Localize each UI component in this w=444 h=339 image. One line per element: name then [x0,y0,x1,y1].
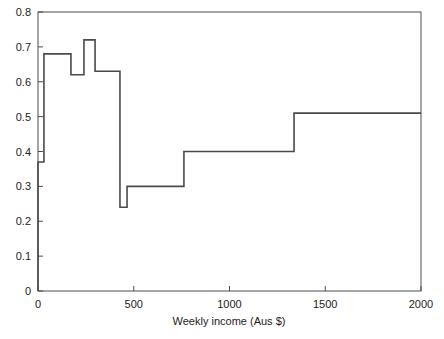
x-tick-label: 2000 [409,298,433,310]
y-axis-tick-labels: 00.10.20.30.40.50.60.70.8 [16,6,31,297]
y-tick-label: 0.4 [16,146,31,158]
x-tick-label: 500 [125,298,143,310]
x-axis-title: Weekly income (Aus $) [173,315,286,327]
y-tick-label: 0.2 [16,215,31,227]
y-tick-label: 0.5 [16,111,31,123]
chart-figure: 00.10.20.30.40.50.60.70.8 05001000150020… [0,0,444,339]
y-tick-label: 0.8 [16,6,31,18]
y-tick-label: 0 [25,285,31,297]
y-tick-label: 0.6 [16,76,31,88]
y-tick-label: 0.7 [16,41,31,53]
figure-background [0,0,444,339]
x-tick-label: 0 [35,298,41,310]
chart-canvas: 00.10.20.30.40.50.60.70.8 05001000150020… [0,0,444,339]
y-tick-label: 0.1 [16,250,31,262]
y-tick-label: 0.3 [16,180,31,192]
x-tick-label: 1500 [313,298,337,310]
x-tick-label: 1000 [217,298,241,310]
